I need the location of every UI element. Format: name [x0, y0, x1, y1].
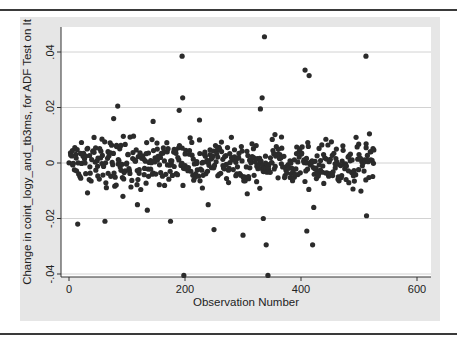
x-axis-label: Observation Number	[193, 296, 299, 308]
y-axis-label: Change in coint_logy_and_tb3ms, for ADF …	[21, 18, 33, 285]
y-tick-label: -.02	[44, 209, 56, 228]
y-tick-label: -.04	[44, 265, 56, 284]
y-tick-label: .04	[44, 44, 56, 59]
y-tick-label: 0	[44, 160, 56, 166]
x-ticks: 0200400600	[66, 277, 426, 295]
x-tick-label: 400	[292, 283, 310, 295]
y-ticks: -.04-.020.02.04	[44, 44, 61, 283]
y-tick-label: .02	[44, 100, 56, 115]
x-tick-label: 600	[408, 283, 426, 295]
x-tick-label: 200	[176, 283, 194, 295]
scatter-chart: -.04-.020.02.04 0200400600 Observation N…	[0, 0, 457, 340]
x-tick-label: 0	[66, 283, 72, 295]
